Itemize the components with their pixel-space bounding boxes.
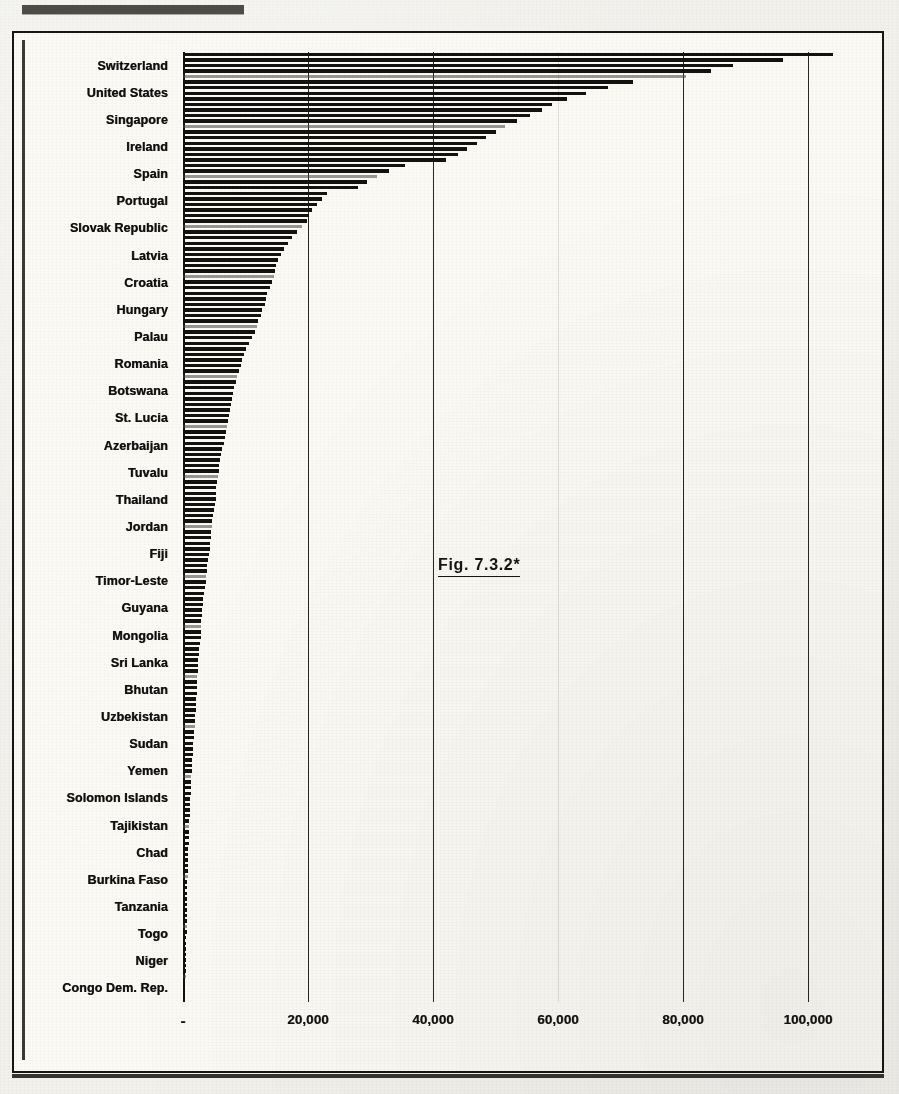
bar (183, 442, 224, 445)
bar (183, 958, 186, 961)
bar (183, 469, 219, 472)
y-axis-label: Portugal (117, 194, 169, 208)
bar (183, 842, 189, 845)
bar (183, 280, 272, 283)
y-axis-label: Burkina Faso (88, 873, 168, 887)
bar (183, 353, 244, 356)
y-axis-label: Palau (134, 330, 168, 344)
bar (183, 730, 194, 733)
y-axis-label: Sudan (129, 737, 168, 751)
bar (183, 419, 228, 422)
bar (183, 925, 187, 928)
bar (183, 908, 187, 911)
bar (183, 86, 608, 89)
y-axis-label: Azerbaijan (104, 439, 168, 453)
bar (183, 630, 201, 633)
bar (183, 992, 185, 995)
bar (183, 75, 686, 78)
bar (183, 758, 192, 761)
bar (183, 125, 505, 128)
bar (183, 880, 187, 883)
bar (183, 80, 633, 83)
bar (183, 314, 261, 317)
bar (183, 486, 216, 489)
bar (183, 797, 190, 800)
bar (183, 192, 327, 195)
bar (183, 930, 187, 933)
bar (183, 653, 199, 656)
y-axis-label: Chad (136, 846, 168, 860)
bar (183, 825, 189, 828)
y-axis-label: Congo Dem. Rep. (62, 981, 168, 995)
bar (183, 53, 833, 56)
y-axis-label: Tanzania (115, 900, 168, 914)
y-axis-label: Hungary (117, 303, 168, 317)
bar (183, 142, 477, 145)
bar (183, 169, 389, 172)
bar (183, 575, 206, 578)
bar (183, 403, 231, 406)
bar (183, 819, 189, 822)
bar (183, 236, 292, 239)
bar (183, 753, 193, 756)
bar (183, 747, 193, 750)
bar (183, 769, 192, 772)
bar (183, 697, 196, 700)
bar (183, 603, 203, 606)
y-axis-label: Croatia (124, 276, 168, 290)
bar (183, 208, 312, 211)
bar (183, 714, 195, 717)
bar (183, 425, 227, 428)
bar (183, 147, 467, 150)
bar (183, 864, 188, 867)
bar (183, 980, 185, 983)
y-axis-label: Mongolia (112, 629, 168, 643)
bar (183, 347, 246, 350)
bar (183, 619, 201, 622)
bar (183, 858, 188, 861)
bar (183, 458, 220, 461)
bar (183, 775, 191, 778)
bar (183, 886, 187, 889)
bar (183, 892, 187, 895)
bar (183, 975, 186, 978)
plot-area (183, 52, 883, 1002)
bar (183, 564, 207, 567)
bar (183, 358, 242, 361)
bar (183, 308, 262, 311)
bar (183, 847, 188, 850)
bar (183, 708, 196, 711)
bar (183, 447, 222, 450)
y-axis-label: Thailand (116, 493, 168, 507)
figure-caption: Fig. 7.3.2* (438, 556, 520, 577)
bar (183, 625, 201, 628)
y-axis-label: United States (87, 86, 168, 100)
bar (183, 247, 284, 250)
bar (183, 669, 198, 672)
y-axis-label: Bhutan (124, 683, 168, 697)
bar (183, 114, 530, 117)
bar (183, 325, 257, 328)
y-axis-label: Uzbekistan (101, 710, 168, 724)
bar (183, 592, 204, 595)
x-tick-label-40000: 40,000 (412, 1012, 453, 1027)
y-axis-label: Solomon Islands (66, 791, 168, 805)
y-axis-label: Switzerland (97, 59, 168, 73)
page-top-rule (22, 5, 244, 14)
bar (183, 275, 274, 278)
bar (183, 364, 241, 367)
bar (183, 130, 496, 133)
bar (183, 269, 275, 272)
bar (183, 286, 270, 289)
bar (183, 197, 322, 200)
bar (183, 947, 186, 950)
bar (183, 475, 218, 478)
bar (183, 919, 187, 922)
bar (183, 830, 189, 833)
bar (183, 180, 367, 183)
bar (183, 836, 189, 839)
bar (183, 525, 212, 528)
y-axis-label: Romania (115, 357, 169, 371)
y-axis-label: St. Lucia (115, 411, 168, 425)
bar (183, 780, 191, 783)
